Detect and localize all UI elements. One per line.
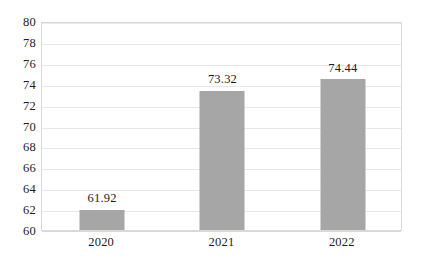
gridline	[42, 231, 401, 232]
bar-2020[interactable]	[80, 210, 125, 230]
y-axis-tick-label: 64	[0, 183, 36, 196]
x-axis: 202020212022	[41, 236, 402, 256]
y-axis-tick-label: 72	[0, 99, 36, 112]
y-axis-tick-label: 68	[0, 141, 36, 154]
y-axis-tick-label: 70	[0, 120, 36, 133]
bar-2021[interactable]	[200, 91, 245, 230]
bar-value-label: 73.32	[208, 73, 237, 86]
y-axis: 8078767472706866646260	[0, 22, 36, 231]
y-axis-tick-label: 66	[0, 162, 36, 175]
y-axis-tick-label: 62	[0, 204, 36, 217]
bar-chart: 8078767472706866646260 61.9273.3274.44 2…	[0, 0, 423, 267]
bar-series: 61.9273.3274.44	[42, 23, 401, 230]
y-axis-tick-label: 76	[0, 58, 36, 71]
x-axis-tick-label: 2021	[209, 236, 235, 249]
x-axis-tick-label: 2020	[88, 236, 114, 249]
plot-area: 61.9273.3274.44	[41, 22, 402, 231]
bar-slot: 74.44	[283, 23, 403, 230]
bar-value-label: 61.92	[88, 192, 117, 205]
y-axis-tick-label: 74	[0, 78, 36, 91]
x-axis-tick-label: 2022	[329, 236, 355, 249]
bar-slot: 61.92	[42, 23, 162, 230]
bar-slot: 73.32	[162, 23, 282, 230]
bar-value-label: 74.44	[328, 62, 357, 75]
y-axis-tick-label: 78	[0, 37, 36, 50]
y-axis-tick-label: 60	[0, 225, 36, 238]
y-axis-tick-label: 80	[0, 16, 36, 29]
bar-2022[interactable]	[320, 79, 365, 230]
